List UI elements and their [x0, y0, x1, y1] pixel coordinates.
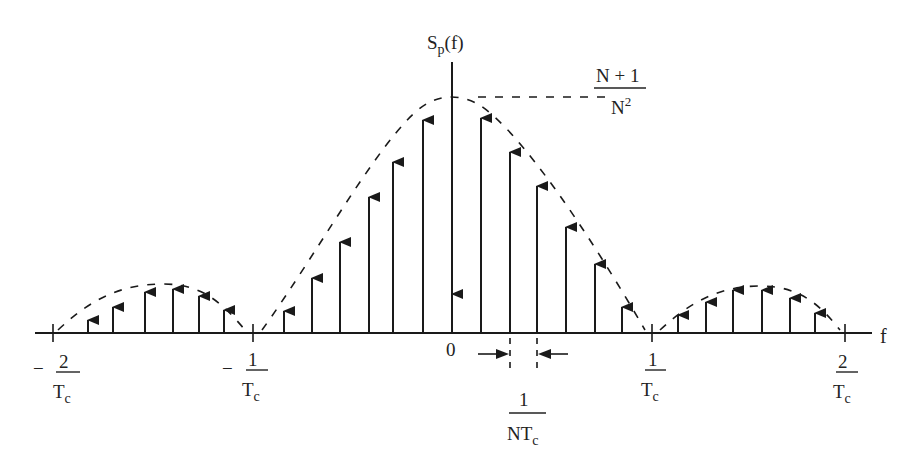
- svg-text:1: 1: [248, 349, 258, 370]
- svg-text:−: −: [33, 358, 44, 379]
- svg-text:2: 2: [59, 351, 69, 372]
- line-spacing-label: 1 NTc: [507, 389, 546, 448]
- tick-label-pos2: 2 Tc: [833, 351, 858, 406]
- tick-label-neg2: − 2 Tc: [33, 351, 80, 406]
- peak-value-label: N + 1 N2: [594, 65, 646, 118]
- spacing-indicator: [478, 338, 568, 372]
- svg-text:1: 1: [519, 389, 529, 410]
- tick-label-zero: 0: [446, 339, 456, 360]
- svg-text:NTc: NTc: [507, 423, 539, 448]
- svg-text:Tc: Tc: [53, 381, 71, 406]
- svg-text:N2: N2: [611, 94, 631, 118]
- svg-text:Tc: Tc: [833, 381, 851, 406]
- svg-text:Tc: Tc: [641, 379, 659, 404]
- svg-text:1: 1: [648, 349, 658, 370]
- spectrum-diagram: Sp(f) N + 1 N2 f − 2 Tc − 1 Tc 0 1 Tc 2 …: [0, 0, 920, 471]
- svg-text:Tc: Tc: [242, 379, 260, 404]
- sinc-envelope: [58, 97, 840, 330]
- tick-label-neg1: − 1 Tc: [222, 349, 268, 404]
- tick-label-pos1: 1 Tc: [641, 349, 666, 404]
- svg-text:2: 2: [838, 351, 848, 372]
- svg-text:−: −: [222, 358, 233, 379]
- y-axis-label: Sp(f): [427, 32, 464, 57]
- svg-text:N + 1: N + 1: [596, 65, 639, 86]
- x-axis-label: f: [880, 325, 887, 347]
